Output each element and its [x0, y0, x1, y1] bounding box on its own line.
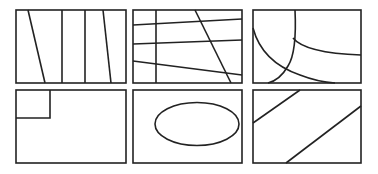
- panel-vertical-partitions: [16, 10, 126, 83]
- panel-4-subrectangle: [16, 90, 50, 118]
- panel-ellipse: [133, 90, 242, 163]
- panel-grid-crossing-lines: [133, 10, 242, 83]
- panel-2-line-horizontal-middle: [133, 40, 242, 44]
- panel-4-border: [16, 90, 126, 163]
- panel-6-diagonal-lower: [286, 106, 361, 163]
- panel-5-ellipse: [155, 103, 239, 146]
- panel-2-line-horizontal-top: [133, 19, 242, 25]
- panel-1-line-slanted-right: [103, 10, 111, 83]
- panel-1-line-slanted-left: [28, 10, 45, 83]
- panel-3-arc-right: [293, 38, 361, 55]
- panel-corner-subrectangle: [16, 90, 126, 163]
- panel-6-diagonal-upper: [253, 90, 300, 123]
- figure-canvas: [0, 0, 378, 174]
- panel-5-border: [133, 90, 242, 163]
- panel-6-border: [253, 90, 361, 163]
- panel-curved-partitions: [253, 10, 361, 83]
- panel-3-arc-outer: [253, 28, 335, 83]
- panel-diagonal-bands: [253, 90, 361, 163]
